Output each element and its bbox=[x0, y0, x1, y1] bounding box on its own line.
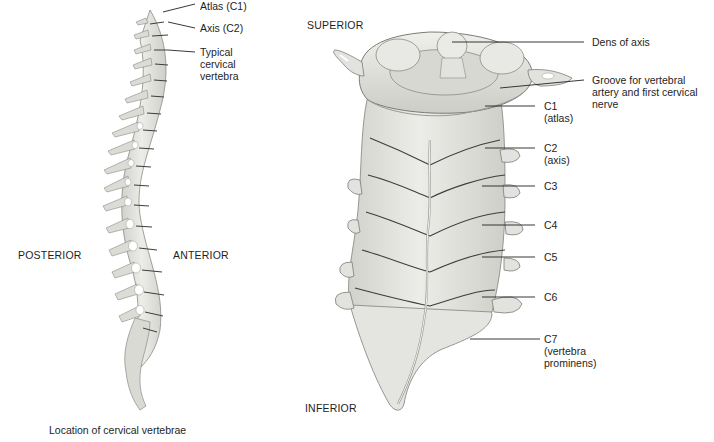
label-c5: C5 bbox=[544, 251, 557, 263]
orientation-inferior: INFERIOR bbox=[305, 402, 357, 414]
label-dens-of-axis: Dens of axis bbox=[592, 36, 650, 48]
cervical-column-view bbox=[334, 32, 572, 410]
label-typical-cervical-vertebra: Typical cervical vertebra bbox=[200, 46, 239, 82]
orientation-posterior: POSTERIOR bbox=[18, 249, 82, 261]
label-c2-axis: C2 (axis) bbox=[544, 142, 570, 166]
label-c1-atlas: C1 (atlas) bbox=[544, 100, 573, 124]
anatomy-illustration bbox=[0, 0, 714, 442]
label-atlas-c1: Atlas (C1) bbox=[200, 0, 247, 12]
spine-lateral-view bbox=[103, 10, 168, 410]
label-groove-vertebral-artery: Groove for vertebral artery and first ce… bbox=[592, 74, 698, 110]
figure-caption: Location of cervical vertebrae bbox=[49, 424, 186, 436]
label-c6: C6 bbox=[544, 291, 557, 303]
label-c7-vertebra-prominens: C7 (vertebra prominens) bbox=[544, 333, 597, 369]
label-c4: C4 bbox=[544, 219, 557, 231]
orientation-anterior: ANTERIOR bbox=[173, 249, 229, 261]
cervical-vertebrae-figure: Atlas (C1) Axis (C2) Typical cervical ve… bbox=[0, 0, 714, 442]
spine-leader-lines bbox=[163, 4, 195, 52]
label-axis-c2: Axis (C2) bbox=[200, 22, 243, 34]
orientation-superior: SUPERIOR bbox=[307, 19, 363, 31]
label-c3: C3 bbox=[544, 180, 557, 192]
